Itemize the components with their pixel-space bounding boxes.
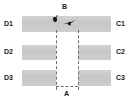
guide-line-bottom — [56, 86, 78, 87]
wedge-marker-icon — [63, 17, 78, 26]
row-2-bar-right — [78, 45, 111, 60]
label-d3: D3 — [4, 74, 13, 82]
guide-line-left — [56, 30, 57, 90]
label-a: A — [64, 90, 69, 98]
wedge-marker-shape — [63, 17, 78, 26]
label-b: B — [62, 3, 67, 11]
row-3-bar-right — [78, 70, 111, 86]
label-c2: C2 — [116, 48, 125, 56]
label-c1: C1 — [116, 20, 125, 28]
row-2-bar-left — [22, 45, 56, 60]
row-3-bar-left — [22, 70, 56, 86]
schematic-diagram: D1 D2 D3 C1 C2 C3 A B — [0, 0, 133, 102]
guide-line-right — [78, 30, 79, 90]
label-c3: C3 — [116, 74, 125, 82]
blob-marker-icon — [52, 15, 58, 24]
label-d2: D2 — [4, 48, 13, 56]
label-d1: D1 — [4, 20, 13, 28]
